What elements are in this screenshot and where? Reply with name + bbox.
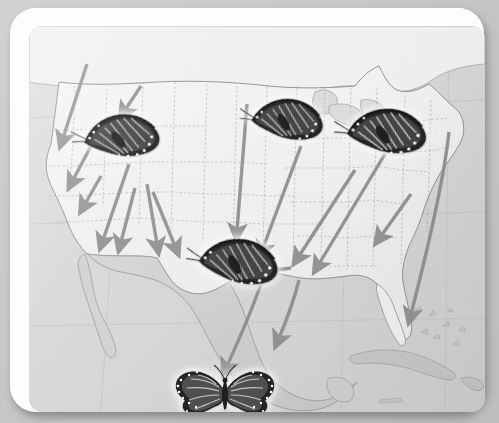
photo-frame [10,8,484,412]
migration-map-svg [29,26,485,412]
map-image [29,26,485,412]
print-wash [29,26,485,412]
screenshot-root: Monarch butterfly fall migration routes … [0,0,499,423]
